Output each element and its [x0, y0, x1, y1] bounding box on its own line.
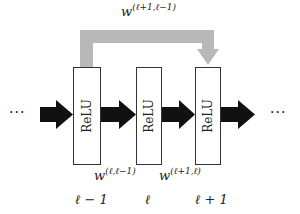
layer-index-current: ℓ — [145, 192, 150, 208]
forward-arrow-2 — [162, 100, 195, 129]
ellipsis-left: ··· — [9, 104, 25, 120]
layer-index-next: ℓ + 1 — [195, 192, 228, 208]
layer-index-prev: ℓ − 1 — [75, 192, 108, 208]
weight-label-2: w(ℓ+1,ℓ) — [159, 167, 201, 183]
relu-label: ReLU — [80, 99, 94, 133]
relu-label: ReLU — [142, 99, 156, 133]
weight-label-1: w(ℓ,ℓ−1) — [94, 167, 136, 183]
relu-label: ReLU — [201, 99, 215, 133]
layer-box-prev: ReLU — [73, 67, 101, 165]
forward-arrow-1 — [101, 100, 136, 129]
ellipsis-right: ··· — [270, 104, 286, 120]
residual-diagram: ··· ··· ReLU ReLU ReLU w(ℓ+1,ℓ−1) w(ℓ,ℓ−… — [0, 0, 300, 214]
forward-arrow-out — [221, 100, 255, 129]
layer-box-current: ReLU — [136, 67, 162, 165]
skip-weight-label: w(ℓ+1,ℓ−1) — [121, 3, 176, 19]
skip-connection-arrow — [80, 30, 219, 67]
layer-box-next: ReLU — [195, 67, 221, 165]
forward-arrow-in — [40, 100, 73, 129]
